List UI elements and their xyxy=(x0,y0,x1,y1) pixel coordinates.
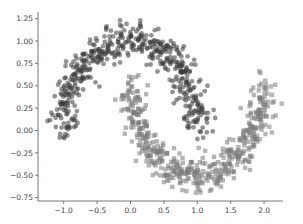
x-tick-label: 0.5 xyxy=(158,206,170,215)
y-tick-label: 0.25 xyxy=(16,104,33,113)
y-tick-label: 0.75 xyxy=(16,59,33,68)
x-tick-label: 1.5 xyxy=(225,206,237,215)
y-tick-label: −0.75 xyxy=(10,193,33,202)
y-tick-label: 1.25 xyxy=(16,14,33,23)
x-tick-label: 0.0 xyxy=(125,206,137,215)
x-tick-label: −1.0 xyxy=(55,206,73,215)
x-tick-label: 1.0 xyxy=(191,206,203,215)
y-tick-label: −0.25 xyxy=(10,149,33,158)
y-tick-label: −0.50 xyxy=(10,171,33,180)
x-tick-label: 2.0 xyxy=(258,206,270,215)
y-tick-label: 0.00 xyxy=(16,126,33,135)
y-tick-label: 1.00 xyxy=(16,37,33,46)
x-tick-label: −0.5 xyxy=(88,206,106,215)
scatter-chart: 1.251.000.750.500.250.00−0.25−0.50−0.75−… xyxy=(0,0,303,224)
chart-canvas: 1.251.000.750.500.250.00−0.25−0.50−0.75−… xyxy=(0,0,303,224)
y-tick-label: 0.50 xyxy=(16,81,33,90)
data-points xyxy=(45,18,284,195)
